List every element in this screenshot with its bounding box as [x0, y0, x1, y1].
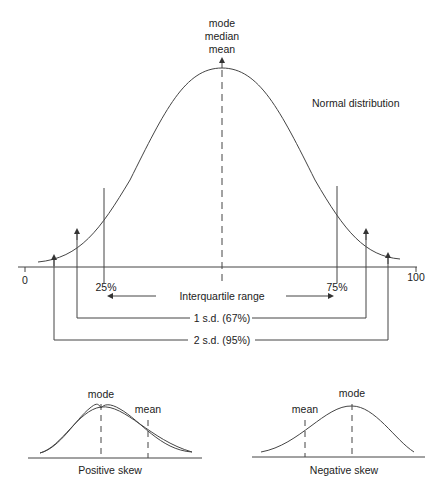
distribution-diagram — [0, 0, 445, 487]
peak-label-median: median — [205, 30, 239, 42]
positive-skew-mean-label: mean — [135, 403, 161, 415]
one-sd-label: 1 s.d. (67%) — [194, 312, 251, 324]
positive-skew-mode-label: mode — [88, 388, 114, 400]
axis-max-label: 100 — [407, 271, 425, 283]
negative-skew-mode-label: mode — [339, 387, 365, 399]
two-sd-bracket — [54, 258, 188, 340]
positive-skew-curve — [40, 404, 192, 453]
negative-skew-mean-label: mean — [292, 403, 318, 415]
negative-skew-caption: Negative skew — [310, 464, 378, 476]
interquartile-range-label: Interquartile range — [179, 290, 264, 302]
negative-skew-curve — [261, 406, 414, 452]
q3-label: 75% — [326, 281, 347, 293]
one-sd-bracket — [77, 232, 190, 318]
diagram-title: Normal distribution — [312, 97, 400, 109]
peak-label-mean: mean — [209, 43, 235, 55]
peak-label-mode: mode — [209, 17, 235, 29]
axis-min-label: 0 — [22, 274, 28, 286]
two-sd-label: 2 s.d. (95%) — [194, 334, 251, 346]
positive-skew-caption: Positive skew — [78, 464, 142, 476]
q1-label: 25% — [95, 281, 116, 293]
